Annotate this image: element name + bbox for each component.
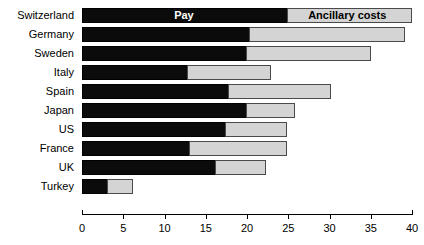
bar-group — [82, 27, 412, 42]
x-axis-tick — [412, 210, 413, 215]
chart-row: UK — [0, 158, 424, 177]
x-axis-tick-label: 10 — [150, 222, 180, 234]
stacked-bar-chart: SwitzerlandPayAncillary costsGermanySwed… — [0, 0, 424, 245]
x-axis-tick-label: 35 — [356, 222, 386, 234]
bar-group — [82, 160, 412, 175]
x-axis-tick-label: 0 — [67, 222, 97, 234]
bar-segment-pay — [82, 84, 229, 99]
chart-row: US — [0, 120, 424, 139]
x-axis-tick-label: 15 — [191, 222, 221, 234]
bar-segment-pay — [82, 179, 108, 194]
chart-row: SwitzerlandPayAncillary costs — [0, 6, 424, 25]
bar-group — [82, 65, 412, 80]
category-label-japan: Japan — [0, 101, 74, 120]
bar-segment-ancillary-costs — [246, 46, 371, 61]
bar-group — [82, 103, 412, 118]
x-axis-tick — [371, 214, 372, 219]
category-label-switzerland: Switzerland — [0, 6, 74, 25]
bar-segment-ancillary-costs — [107, 179, 133, 194]
x-axis-tick-label: 5 — [108, 222, 138, 234]
category-label-france: France — [0, 139, 74, 158]
bar-group — [82, 179, 412, 194]
bar-group — [82, 122, 412, 137]
bar-segment-pay — [82, 122, 226, 137]
bar-segment-pay — [82, 65, 188, 80]
bar-segment-ancillary-costs — [215, 160, 266, 175]
category-label-germany: Germany — [0, 25, 74, 44]
bar-segment-pay — [82, 27, 250, 42]
bar-segment-ancillary-costs — [189, 141, 287, 156]
chart-row: Germany — [0, 25, 424, 44]
chart-row: Sweden — [0, 44, 424, 63]
bar-group — [82, 46, 412, 61]
bar-segment-ancillary-costs — [187, 65, 271, 80]
x-axis-tick — [82, 210, 83, 215]
x-axis-tick-label: 25 — [273, 222, 303, 234]
x-axis-tick — [206, 214, 207, 219]
x-axis-tick — [288, 214, 289, 219]
x-axis-tick-label: 30 — [315, 222, 345, 234]
x-axis-tick-label: 20 — [232, 222, 262, 234]
bar-group — [82, 141, 412, 156]
bar-segment-ancillary-costs — [246, 103, 295, 118]
bar-segment-ancillary-costs — [228, 84, 331, 99]
bar-segment-ancillary-costs — [249, 27, 404, 42]
category-label-sweden: Sweden — [0, 44, 74, 63]
x-axis-tick — [165, 214, 166, 219]
chart-plot-area: SwitzerlandPayAncillary costsGermanySwed… — [0, 6, 424, 196]
category-label-spain: Spain — [0, 82, 74, 101]
bar-segment-pay — [82, 141, 190, 156]
chart-row: Japan — [0, 101, 424, 120]
legend-label-ancillary-costs: Ancillary costs — [308, 8, 386, 23]
bar-segment-pay — [82, 103, 247, 118]
x-axis-tick — [247, 214, 248, 219]
bar-group: PayAncillary costs — [82, 8, 412, 23]
category-label-italy: Italy — [0, 63, 74, 82]
bar-segment-pay — [82, 46, 247, 61]
category-label-turkey: Turkey — [0, 177, 74, 196]
bar-segment-ancillary-costs — [225, 122, 288, 137]
x-axis: 0510152025303540 — [0, 214, 424, 245]
category-label-uk: UK — [0, 158, 74, 177]
x-axis-tick — [330, 214, 331, 219]
category-label-us: US — [0, 120, 74, 139]
bar-group — [82, 84, 412, 99]
chart-row: Turkey — [0, 177, 424, 196]
x-axis-tick — [123, 214, 124, 219]
legend-label-pay: Pay — [174, 8, 194, 23]
chart-row: Italy — [0, 63, 424, 82]
chart-row: Spain — [0, 82, 424, 101]
bar-segment-pay — [82, 160, 216, 175]
chart-row: France — [0, 139, 424, 158]
x-axis-tick-label: 40 — [397, 222, 424, 234]
